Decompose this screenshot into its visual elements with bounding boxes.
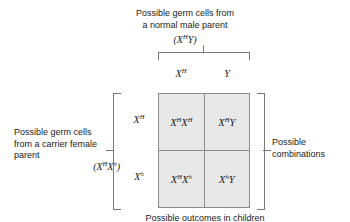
male-parent-label: Possible germ cells from a normal male p… (120, 8, 250, 31)
cell-row1-col0: XHXh (159, 151, 204, 207)
bottom-caption: Possible outcomes in children (120, 213, 290, 222)
cell-genotype: XHXh (171, 174, 192, 185)
right-bracket (257, 93, 265, 210)
cell-genotype: XHY (218, 117, 235, 128)
left-bracket-tick (106, 150, 114, 151)
male-parent-genotype: (XHY) (120, 34, 250, 46)
punnett-square-diagram: Possible germ cells from a normal male p… (0, 0, 350, 222)
possible-combinations-label: Possible combinations (272, 137, 348, 160)
female-parent-label: Possible germ cells from a carrier femal… (14, 127, 106, 162)
column-header-xh: XH (158, 68, 204, 80)
column-header-y: Y (204, 68, 250, 80)
left-bracket (113, 93, 121, 210)
top-bracket-tick (203, 45, 204, 53)
cell-row0-col1: XHY (205, 94, 250, 150)
female-parent-genotype: (XHXh) (14, 161, 120, 173)
row-header-xh: XH (126, 114, 152, 126)
top-bracket (158, 52, 250, 60)
row-header-xh-lower: Xh (126, 171, 152, 183)
cell-row1-col1: XhY (205, 151, 250, 207)
cell-genotype: XhY (219, 174, 235, 185)
cell-row0-col0: XHXH (159, 94, 204, 150)
cell-genotype: XHXH (170, 117, 192, 128)
punnett-grid: XHXH XHY XHXh XhY (158, 93, 250, 208)
right-bracket-tick (263, 150, 271, 151)
